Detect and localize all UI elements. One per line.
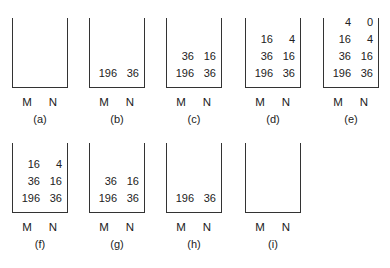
frame-m-value: 4 bbox=[329, 14, 351, 31]
column-label-m: M bbox=[252, 96, 268, 108]
frame-m-value: 16 bbox=[329, 31, 351, 48]
stack-caption: (h) bbox=[166, 238, 222, 250]
column-label-n: N bbox=[122, 96, 138, 108]
frame-m-value: 196 bbox=[329, 65, 351, 82]
stack-rows: 196363616 bbox=[167, 48, 221, 82]
column-label-m: M bbox=[173, 96, 189, 108]
frame-n-value: 4 bbox=[42, 156, 62, 173]
column-label-m: M bbox=[19, 96, 35, 108]
frame-n-value: 16 bbox=[196, 48, 216, 65]
column-label-m: M bbox=[96, 96, 112, 108]
stack-frame: 164 bbox=[324, 31, 378, 48]
stack-frame: 19636 bbox=[167, 190, 221, 207]
stack-frame: 164 bbox=[13, 156, 67, 173]
stack-caption: (i) bbox=[245, 238, 301, 250]
stack-rows: 196363616164 bbox=[13, 156, 67, 207]
stack-rows: 196363616 bbox=[90, 173, 144, 207]
frame-m-value: 16 bbox=[251, 31, 273, 48]
stack-caption: (a) bbox=[12, 113, 68, 125]
column-labels: MN bbox=[89, 96, 145, 108]
stack-caption: (b) bbox=[89, 113, 145, 125]
stack-caption: (d) bbox=[245, 113, 301, 125]
frame-n-value: 16 bbox=[275, 48, 295, 65]
stack-container: 19636361616440 bbox=[323, 18, 379, 88]
stack-rows: 19636361616440 bbox=[324, 14, 378, 82]
stack-frame: 3616 bbox=[13, 173, 67, 190]
frame-n-value: 36 bbox=[196, 190, 216, 207]
column-labels: MN bbox=[245, 221, 301, 233]
stack-container: 19636 bbox=[166, 143, 222, 213]
column-label-m: M bbox=[330, 96, 346, 108]
stack-caption: (e) bbox=[323, 113, 379, 125]
frame-n-value: 36 bbox=[119, 65, 139, 82]
stack-container bbox=[245, 143, 301, 213]
column-label-n: N bbox=[122, 221, 138, 233]
column-label-n: N bbox=[45, 96, 61, 108]
frame-n-value: 36 bbox=[119, 190, 139, 207]
stack-container: 196363616 bbox=[89, 143, 145, 213]
frame-n-value: 16 bbox=[353, 48, 373, 65]
frame-m-value: 196 bbox=[251, 65, 273, 82]
stack-frame: 40 bbox=[324, 14, 378, 31]
frame-n-value: 4 bbox=[275, 31, 295, 48]
column-label-m: M bbox=[19, 221, 35, 233]
frame-n-value: 0 bbox=[353, 14, 373, 31]
stack-container: 19636 bbox=[89, 18, 145, 88]
column-label-n: N bbox=[199, 221, 215, 233]
stack-rows: 19636 bbox=[90, 65, 144, 82]
stack-caption: (g) bbox=[89, 238, 145, 250]
stack-rows: 196363616164 bbox=[246, 31, 300, 82]
frame-m-value: 36 bbox=[172, 48, 194, 65]
frame-m-value: 36 bbox=[329, 48, 351, 65]
column-label-n: N bbox=[278, 221, 294, 233]
stack-frame: 19636 bbox=[90, 190, 144, 207]
column-label-n: N bbox=[45, 221, 61, 233]
stack-rows: 19636 bbox=[167, 190, 221, 207]
frame-n-value: 36 bbox=[353, 65, 373, 82]
stack-frame: 19636 bbox=[90, 65, 144, 82]
stack-frame: 19636 bbox=[13, 190, 67, 207]
column-labels: MN bbox=[323, 96, 379, 108]
frame-m-value: 196 bbox=[172, 190, 194, 207]
stack-container: 196363616 bbox=[166, 18, 222, 88]
column-label-m: M bbox=[96, 221, 112, 233]
frame-m-value: 196 bbox=[172, 65, 194, 82]
frame-n-value: 4 bbox=[353, 31, 373, 48]
stack-container bbox=[12, 18, 68, 88]
column-label-n: N bbox=[356, 96, 372, 108]
column-label-n: N bbox=[278, 96, 294, 108]
stack-frame: 3616 bbox=[90, 173, 144, 190]
frame-m-value: 36 bbox=[95, 173, 117, 190]
stack-container: 196363616164 bbox=[12, 143, 68, 213]
stack-caption: (c) bbox=[166, 113, 222, 125]
frame-n-value: 36 bbox=[42, 190, 62, 207]
stack-frame: 19636 bbox=[167, 65, 221, 82]
column-labels: MN bbox=[166, 96, 222, 108]
column-labels: MN bbox=[12, 221, 68, 233]
frame-n-value: 36 bbox=[196, 65, 216, 82]
column-label-m: M bbox=[252, 221, 268, 233]
frame-m-value: 196 bbox=[95, 65, 117, 82]
stack-frame: 3616 bbox=[324, 48, 378, 65]
stack-frame: 164 bbox=[246, 31, 300, 48]
stack-container: 196363616164 bbox=[245, 18, 301, 88]
stack-caption: (f) bbox=[12, 238, 68, 250]
frame-n-value: 16 bbox=[42, 173, 62, 190]
stack-frame: 3616 bbox=[246, 48, 300, 65]
stack-frame: 3616 bbox=[167, 48, 221, 65]
frame-m-value: 196 bbox=[95, 190, 117, 207]
stack-frame: 19636 bbox=[324, 65, 378, 82]
frame-m-value: 36 bbox=[18, 173, 40, 190]
frame-n-value: 36 bbox=[275, 65, 295, 82]
column-labels: MN bbox=[166, 221, 222, 233]
column-label-m: M bbox=[173, 221, 189, 233]
frame-m-value: 36 bbox=[251, 48, 273, 65]
column-labels: MN bbox=[12, 96, 68, 108]
frame-m-value: 196 bbox=[18, 190, 40, 207]
frame-m-value: 16 bbox=[18, 156, 40, 173]
stack-frame: 19636 bbox=[246, 65, 300, 82]
column-labels: MN bbox=[89, 221, 145, 233]
frame-n-value: 16 bbox=[119, 173, 139, 190]
column-labels: MN bbox=[245, 96, 301, 108]
column-label-n: N bbox=[199, 96, 215, 108]
